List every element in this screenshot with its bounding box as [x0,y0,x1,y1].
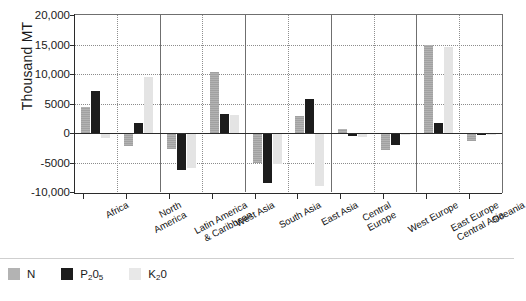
category-separator [374,15,375,192]
bar-east-asia-n [295,116,304,133]
category-separator [459,15,460,192]
bar-oceania-n [467,133,476,141]
y-axis-tick-labels: 20,00015,00010,00050000-5000-10,000 [0,0,70,301]
x-axis-category-label: CentralEurope [361,200,398,233]
x-axis-tick-mark [83,193,84,199]
zero-baseline [74,133,502,134]
y-axis-tick-label: 10,000 [35,68,70,80]
legend-divider [0,258,514,259]
chart-legend: N P205 K20 [8,268,193,280]
x-axis-category-label: Africa [103,200,130,221]
x-axis-tick-mark [340,193,341,199]
bar-east-europe-central-asia-p2o5 [434,123,443,133]
bar-west-europe-n [381,133,390,150]
y-axis-tick-mark [70,15,75,16]
x-axis-tick-mark [297,193,298,199]
bar-west-asia-k2o [230,115,239,133]
y-axis-tick-mark [70,192,75,193]
legend-item-k2o[interactable]: K20 [129,268,167,280]
y-axis-tick-mark [70,104,75,105]
bar-west-asia-p2o5 [220,114,229,133]
bar-north-america-p2o5 [134,123,143,133]
bar-africa-n [81,107,90,133]
x-axis-tick-mark [469,193,470,199]
x-axis-category-label: East Asia [319,200,359,228]
category-separator [288,15,289,192]
bar-latin-america-caribbean-p2o5 [177,133,186,170]
y-axis-tick-label: 5000 [44,98,70,110]
x-axis-tick-mark [126,193,127,199]
legend-swatch-n-icon [8,268,20,280]
plot-right-border [502,14,503,193]
plot-area [74,15,502,192]
x-axis-label-line: Africa [103,200,130,221]
bar-west-asia-n [210,72,219,133]
x-axis-label-line: South Asia [277,200,322,231]
category-separator [202,15,203,192]
y-axis-tick-mark [70,45,75,46]
bar-east-europe-central-asia-n [424,45,433,134]
bar-north-america-k2o [144,77,153,133]
category-separator [331,15,332,192]
y-axis-tick-mark [70,163,75,164]
bar-south-asia-p2o5 [263,133,272,183]
x-axis-tick-mark [212,193,213,199]
x-axis-category-label: South Asia [277,200,322,231]
y-axis-tick-label: -10,000 [31,186,70,198]
x-axis-category-label: NorthAmerica [147,200,188,235]
x-axis-label-line: East Asia [319,200,359,228]
y-axis-tick-label: 20,000 [35,9,70,21]
bar-north-america-n [124,133,133,146]
legend-label-p2o5: P205 [80,268,103,280]
category-separator [117,15,118,192]
bar-africa-p2o5 [91,91,100,133]
category-separator [416,15,417,192]
x-axis-line [74,193,502,194]
bar-latin-america-caribbean-k2o [187,133,196,168]
bar-south-asia-k2o [273,133,282,164]
y-axis-tick-label: -5000 [41,157,70,169]
y-axis-tick-mark [70,74,75,75]
bar-east-asia-p2o5 [305,99,314,133]
legend-item-n[interactable]: N [8,268,35,280]
legend-item-p2o5[interactable]: P205 [61,268,103,280]
x-axis-tick-mark [426,193,427,199]
x-axis-tick-mark [255,193,256,199]
legend-label-k2o: K20 [148,268,167,280]
legend-swatch-k2o-icon [129,268,141,280]
y-axis-tick-label: 15,000 [35,39,70,51]
bar-east-asia-k2o [315,133,324,186]
legend-swatch-p2o5-icon [61,268,73,280]
category-separator [160,15,161,192]
bar-latin-america-caribbean-n [167,133,176,149]
legend-label-n: N [27,268,35,280]
x-axis-tick-mark [383,193,384,199]
bar-east-europe-central-asia-k2o [444,47,453,133]
x-axis-tick-mark [169,193,170,199]
bar-south-asia-n [253,133,262,163]
category-separator [245,15,246,192]
bar-west-europe-p2o5 [391,133,400,145]
